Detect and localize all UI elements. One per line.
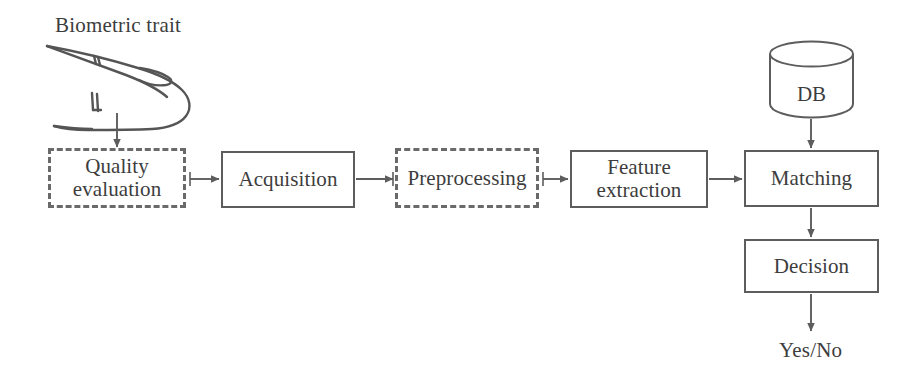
node-feature-extraction-label: Feature extraction xyxy=(597,156,682,201)
database-cylinder[interactable]: DB xyxy=(768,40,855,120)
node-preprocessing[interactable]: Preprocessing xyxy=(395,148,539,208)
node-decision-label: Decision xyxy=(774,255,849,278)
node-acquisition-label: Acquisition xyxy=(238,168,337,191)
output-yes-no-label: Yes/No xyxy=(779,338,842,363)
node-matching[interactable]: Matching xyxy=(744,150,879,207)
node-decision[interactable]: Decision xyxy=(744,239,879,293)
biometric-system-flow-diagram: Biometric trait Quality evaluation Acqui… xyxy=(0,0,923,384)
fingerprint-illustration xyxy=(40,40,210,140)
node-matching-label: Matching xyxy=(771,167,852,190)
node-preprocessing-label: Preprocessing xyxy=(407,167,526,190)
biometric-trait-label: Biometric trait xyxy=(55,13,181,38)
node-acquisition[interactable]: Acquisition xyxy=(221,151,355,208)
node-feature-extraction[interactable]: Feature extraction xyxy=(570,150,708,208)
node-quality-evaluation[interactable]: Quality evaluation xyxy=(48,148,186,208)
node-quality-evaluation-label: Quality evaluation xyxy=(73,155,161,200)
database-icon xyxy=(768,40,855,120)
